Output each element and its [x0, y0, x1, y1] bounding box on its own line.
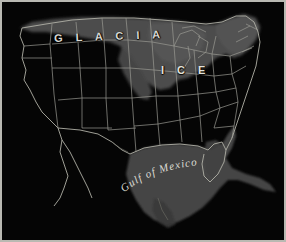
- map-plate: G L A C I A I C E Gulf of Mexico: [2, 2, 284, 240]
- us-glacial-map: [2, 2, 284, 240]
- map-figure: G L A C I A I C E Gulf of Mexico: [0, 0, 286, 242]
